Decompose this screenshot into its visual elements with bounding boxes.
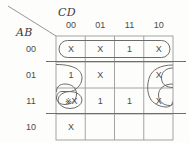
cell-value: X — [71, 96, 76, 106]
kmap-cell-11-00: ※X — [56, 96, 86, 106]
column-header-3: 10 — [144, 20, 174, 30]
karnaugh-map-diagram: CD AB 00 01 11 10 00 01 11 10 XX1X1XX※X1… — [0, 0, 189, 143]
kmap-cell-00-11: 1 — [115, 44, 145, 54]
kmap-cell-00-10: X — [144, 44, 174, 54]
kmap-cell-01-01: X — [85, 70, 115, 80]
kmap-cell-00-00: X — [56, 44, 86, 54]
column-header-0: 00 — [56, 20, 86, 30]
row-header-0: 00 — [18, 44, 44, 54]
kmap-cell-01-00: 1 — [56, 70, 86, 80]
kmap-cell-11-10: X — [144, 96, 174, 106]
row-header-3: 10 — [18, 122, 44, 132]
row-header-1: 01 — [18, 70, 44, 80]
kmap-cell-01-10: X — [144, 70, 174, 80]
kmap-cell-10-00: X — [56, 122, 86, 132]
kmap-cell-11-11: 1 — [115, 96, 145, 106]
column-header-1: 01 — [85, 20, 115, 30]
row-header-2: 11 — [18, 96, 44, 106]
column-header-2: 11 — [115, 20, 145, 30]
row-variable-label: AB — [16, 26, 33, 39]
column-variable-label: CD — [58, 6, 76, 19]
kmap-cell-11-01: 1 — [85, 96, 115, 106]
kmap-cell-00-01: X — [85, 44, 115, 54]
